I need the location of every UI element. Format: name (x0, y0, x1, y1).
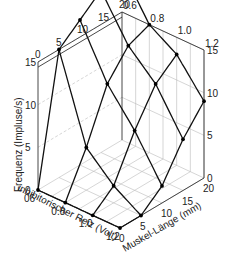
svg-text:5: 5 (56, 37, 62, 48)
svg-text:10: 10 (207, 88, 219, 99)
svg-text:5: 5 (25, 142, 31, 153)
svg-text:inhibitorischer Reiz (Volt): inhibitorischer Reiz (Volt) (16, 182, 120, 242)
svg-text:5: 5 (207, 130, 213, 141)
svg-text:0.6: 0.6 (123, 0, 137, 11)
svg-text:10: 10 (25, 100, 37, 111)
svg-text:20: 20 (203, 183, 215, 194)
chart-canvas: 051015051015051015200.60.81.01.2060.81.0… (0, 0, 226, 255)
svg-text:0: 0 (35, 49, 41, 60)
surface-chart: 051015051015051015200.60.81.01.2060.81.0… (0, 0, 226, 255)
svg-text:1.2: 1.2 (205, 38, 219, 49)
svg-text:15: 15 (98, 12, 110, 23)
svg-text:1.0: 1.0 (178, 25, 192, 36)
svg-text:0.8: 0.8 (150, 13, 164, 24)
svg-text:10: 10 (77, 24, 89, 35)
svg-text:Frequenz (Impluse/s): Frequenz (Impluse/s) (13, 98, 24, 192)
